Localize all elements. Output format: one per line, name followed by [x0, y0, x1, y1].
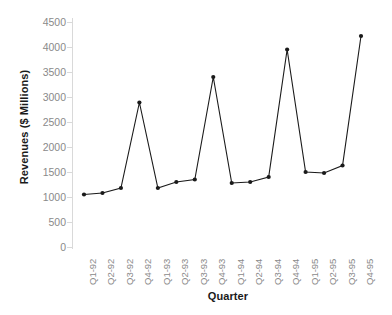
x-axis-tick-label: Q3-93	[199, 259, 209, 285]
y-axis-tick-mark	[67, 22, 72, 23]
y-axis-tick-mark	[67, 47, 72, 48]
y-axis-tick-mark	[67, 97, 72, 98]
x-axis-tick-label: Q3-92	[125, 259, 135, 285]
y-axis-tick-mark	[67, 122, 72, 123]
x-axis-tick-label: Q3-94	[273, 259, 283, 285]
y-axis-tick-mark	[67, 222, 72, 223]
x-axis-tick-label: Q4-94	[291, 259, 301, 285]
y-axis-tick-mark	[67, 172, 72, 173]
x-axis-title: Quarter	[72, 290, 384, 302]
x-axis-tick-label: Q4-92	[143, 259, 153, 285]
x-axis-tick-label: Q2-95	[328, 259, 338, 285]
x-axis-tick-label: Q1-95	[310, 259, 320, 285]
x-axis-tick-label: Q2-92	[106, 259, 116, 285]
x-axis-tick-labels: Q1-92Q2-92Q3-92Q4-92Q1-93Q2-93Q3-93Q4-93…	[0, 0, 392, 315]
x-axis-tick-label: Q3-95	[347, 259, 357, 285]
x-axis-tick-label: Q1-93	[162, 259, 172, 285]
y-axis-tick-mark	[67, 147, 72, 148]
y-axis-tick-mark	[67, 197, 72, 198]
x-axis-tick-label: Q2-94	[254, 259, 264, 285]
x-axis-tick-label: Q4-93	[217, 259, 227, 285]
revenue-line-chart: Revenues ($ Millions) 050010001500200025…	[0, 0, 392, 315]
x-axis-tick-label: Q1-94	[236, 259, 246, 285]
x-axis-tick-label: Q1-92	[88, 259, 98, 285]
y-axis-tick-mark	[67, 72, 72, 73]
x-axis-tick-label: Q2-93	[180, 259, 190, 285]
x-axis-tick-label: Q4-95	[365, 259, 375, 285]
y-axis-tick-mark	[67, 247, 72, 248]
